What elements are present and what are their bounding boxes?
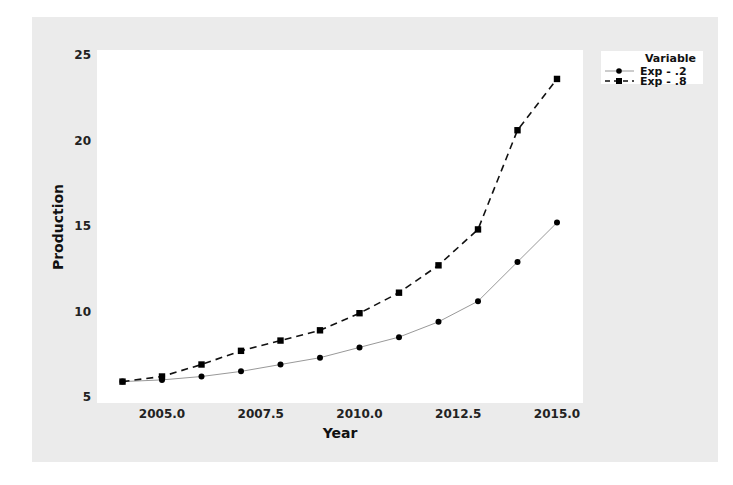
y-tick-label: 10 [74, 305, 91, 319]
data-point-circle [357, 344, 363, 350]
legend-title: Variable [645, 52, 696, 65]
x-axis-title: Year [322, 425, 358, 441]
x-tick-label: 2015.0 [534, 407, 580, 421]
x-tick-label: 2005.0 [139, 407, 185, 421]
data-point-circle [515, 259, 521, 265]
y-axis-ticks: 510152025 [74, 48, 91, 404]
data-point-circle [199, 373, 205, 379]
data-point-square [317, 327, 323, 333]
data-point-square [554, 76, 560, 82]
legend: Variable Exp - .2 Exp - .8 [601, 51, 703, 88]
y-axis-title: Production [50, 184, 66, 270]
y-tick-label: 15 [74, 219, 91, 233]
x-axis-ticks: 2005.02007.52010.02012.52015.0 [139, 407, 580, 421]
y-tick-label: 20 [74, 134, 91, 148]
data-point-square [238, 348, 244, 354]
data-point-square [475, 226, 481, 232]
line-chart: 510152025 2005.02007.52010.02012.52015.0… [0, 0, 733, 485]
data-point-circle [475, 298, 481, 304]
data-point-circle [317, 355, 323, 361]
data-point-square [514, 127, 520, 133]
data-point-square [198, 361, 204, 367]
data-point-circle [436, 319, 442, 325]
legend-circle-marker-icon [616, 68, 622, 74]
x-tick-label: 2007.5 [238, 407, 284, 421]
y-tick-label: 5 [83, 390, 91, 404]
y-tick-label: 25 [74, 48, 91, 62]
data-point-circle [396, 334, 402, 340]
data-point-circle [238, 368, 244, 374]
legend-label-exp-8: Exp - .8 [640, 75, 687, 88]
data-point-square [119, 378, 125, 384]
data-point-square [356, 310, 362, 316]
data-point-square [435, 262, 441, 268]
data-point-square [277, 337, 283, 343]
legend-square-marker-icon [616, 78, 622, 84]
data-point-square [159, 373, 165, 379]
data-point-circle [554, 220, 560, 226]
x-tick-label: 2012.5 [435, 407, 481, 421]
x-tick-label: 2010.0 [336, 407, 382, 421]
plot-area [97, 50, 583, 403]
data-point-square [396, 289, 402, 295]
data-point-circle [278, 362, 284, 368]
